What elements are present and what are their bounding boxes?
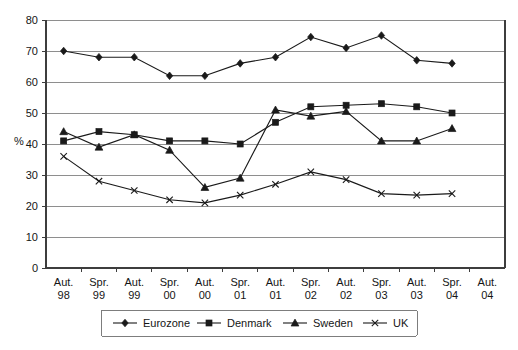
y-tick-label: 80	[26, 14, 38, 26]
chart-container: 01020304050607080 Aut.98Spr.99Aut.99Spr.…	[0, 0, 518, 350]
series-line	[64, 36, 452, 76]
series-line	[64, 110, 452, 187]
data-point-marker	[272, 53, 278, 61]
data-point-marker	[448, 125, 456, 132]
y-tick-label: 0	[32, 262, 38, 274]
data-point-marker	[308, 33, 314, 41]
data-point-marker	[60, 47, 66, 55]
data-point-marker	[60, 128, 68, 135]
y-tick-label: 60	[26, 76, 38, 88]
data-point-marker	[449, 60, 455, 68]
series-uk	[60, 153, 455, 206]
line-chart: 01020304050607080 Aut.98Spr.99Aut.99Spr.…	[0, 0, 518, 350]
legend-marker-square	[206, 320, 212, 326]
y-tick-label: 50	[26, 107, 38, 119]
x-tick-label-season: Aut.	[336, 276, 356, 288]
legend-label: Eurozone	[143, 317, 190, 329]
x-tick-label-season: Spr.	[301, 276, 321, 288]
x-tick-label-year: 00	[199, 289, 211, 301]
legend-label: UK	[393, 317, 409, 329]
x-tick-label-year: 01	[269, 289, 281, 301]
x-tick-label-season: Aut.	[478, 276, 498, 288]
y-tick-label: 30	[26, 169, 38, 181]
data-point-marker	[237, 60, 243, 68]
data-point-marker	[96, 129, 102, 135]
x-tick-label-season: Aut.	[266, 276, 286, 288]
data-point-marker	[272, 181, 278, 187]
x-tick-label-year: 01	[234, 289, 246, 301]
x-tick-label-year: 03	[375, 289, 387, 301]
y-tick-label: 10	[26, 231, 38, 243]
x-tick-label-season: Spr.	[372, 276, 392, 288]
y-axis-label: %	[14, 135, 24, 147]
data-point-marker	[167, 138, 173, 144]
data-point-marker	[96, 53, 102, 61]
x-tick-label-season: Spr.	[442, 276, 462, 288]
data-point-marker	[60, 153, 66, 159]
data-point-marker	[378, 101, 384, 107]
series-line	[64, 156, 452, 203]
data-point-marker	[202, 138, 208, 144]
legend-label: Sweden	[313, 317, 353, 329]
data-point-marker	[449, 110, 455, 116]
data-point-marker	[166, 72, 172, 80]
x-tick-label-season: Aut.	[195, 276, 215, 288]
data-point-marker	[96, 178, 102, 184]
x-tick-label-season: Aut.	[54, 276, 74, 288]
y-tick-label: 70	[26, 45, 38, 57]
chart-legend: EurozoneDenmarkSwedenUK	[101, 310, 417, 336]
data-point-marker	[202, 72, 208, 80]
series-group	[60, 32, 456, 206]
x-tick-label-year: 99	[128, 289, 140, 301]
data-point-marker	[414, 104, 420, 110]
x-tick-label-year: 03	[411, 289, 423, 301]
data-point-marker	[378, 32, 384, 40]
x-tick-label-year: 04	[446, 289, 458, 301]
data-point-marker	[414, 57, 420, 65]
x-tick-label-year: 99	[93, 289, 105, 301]
y-tick-label: 20	[26, 200, 38, 212]
legend-label: Denmark	[227, 317, 272, 329]
x-tick-label-year: 00	[163, 289, 175, 301]
data-point-marker	[273, 119, 279, 125]
x-tick-label-season: Spr.	[89, 276, 109, 288]
data-point-marker	[308, 104, 314, 110]
data-point-marker	[272, 106, 280, 113]
data-point-marker	[131, 53, 137, 61]
x-tick-label-year: 02	[305, 289, 317, 301]
series-sweden	[60, 106, 456, 190]
x-tick-label-year: 02	[340, 289, 352, 301]
x-tick-label-year: 98	[58, 289, 70, 301]
x-tick-label-season: Aut.	[124, 276, 144, 288]
data-point-marker	[131, 187, 137, 193]
x-tick-label-season: Spr.	[160, 276, 180, 288]
data-point-marker	[237, 141, 243, 147]
data-point-marker	[166, 146, 174, 153]
x-tick-label-season: Aut.	[407, 276, 427, 288]
data-point-marker	[61, 138, 67, 144]
y-axis-group: 01020304050607080	[26, 14, 46, 274]
y-tick-label: 40	[26, 138, 38, 150]
x-tick-label-season: Spr.	[230, 276, 250, 288]
x-tick-label-year: 04	[481, 289, 493, 301]
series-eurozone	[60, 32, 455, 80]
series-line	[64, 104, 452, 144]
